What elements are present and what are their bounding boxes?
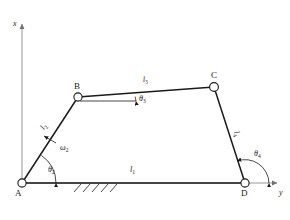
link-l3-coupler [78,87,214,97]
four-bar-linkage-diagram: x y A B C D l1 l2 l3 l4 [0,0,290,220]
hatch-mark [101,184,108,192]
vertex-label-D: D [241,188,248,198]
link-label-l4: l4 [231,130,242,138]
link-l3-subscript: 3 [145,79,148,85]
x-axis-label: x [12,19,17,28]
link-l4-rocker [214,87,245,183]
omega2-indicator [44,136,56,143]
joint-A [18,179,26,187]
link-label-l3: l3 [143,75,149,85]
angle-label-theta2: θ2 [48,165,55,175]
linkage-canvas: x y A B C D l1 l2 l3 l4 [0,0,290,220]
ground-hatching [74,184,117,192]
link-label-l2: l2 [38,122,49,132]
vertex-label-A: A [15,188,22,198]
hatch-mark [83,184,90,192]
joint-C [210,83,219,92]
theta3-arc [135,97,136,101]
hatch-mark [110,184,117,192]
vertex-label-C: C [211,70,217,80]
joint-D [241,179,249,187]
link-l1-subscript: 1 [132,169,135,175]
svg-text:l2: l2 [38,122,49,132]
theta2-subscript: 2 [52,169,55,175]
svg-text:l4: l4 [231,130,242,138]
theta3-subscript: 3 [143,98,146,104]
annotation-label-omega2: ω2 [60,143,69,153]
svg-text:l1: l1 [130,165,135,175]
y-axis-label: y [278,188,283,197]
vertex-label-B: B [74,81,80,91]
svg-text:l3: l3 [143,75,149,85]
omega2-arrow [44,136,56,143]
theta4-subscript: 4 [258,153,261,159]
hatch-mark [92,184,99,192]
angle-label-theta4: θ4 [254,149,261,159]
coordinate-axes [22,24,277,183]
angle-arcs [42,97,270,183]
link-label-l1: l1 [130,165,135,175]
link-l4-subscript: 4 [232,133,239,138]
omega2-subscript: 2 [66,147,69,153]
hatch-mark [74,184,81,192]
angle-label-theta3: θ3 [139,94,146,104]
joint-B [74,93,82,101]
